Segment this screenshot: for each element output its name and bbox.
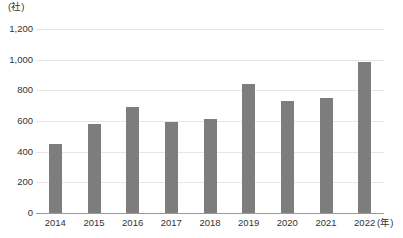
bar	[88, 124, 101, 213]
x-axis-tick-label: 2014	[35, 217, 75, 228]
bar	[320, 98, 333, 213]
y-axis-tick-label: 1,000	[1, 55, 33, 65]
y-axis-unit-label: (社)	[8, 1, 24, 12]
x-axis-tick-label: 2018	[190, 217, 230, 228]
y-axis-tick-label: 400	[1, 147, 33, 157]
x-axis-tick-label: 2017	[151, 217, 191, 228]
y-axis-tick-label: 600	[1, 116, 33, 126]
gridline	[36, 90, 384, 91]
bar	[126, 107, 139, 213]
y-axis-tick-label: 200	[1, 177, 33, 187]
y-axis-tick-label: 800	[1, 85, 33, 95]
x-axis-tick-label: 2020	[267, 217, 307, 228]
gridline	[36, 60, 384, 61]
x-axis-tick-label: 2015	[74, 217, 114, 228]
bar	[204, 119, 217, 213]
y-axis-tick-labels: 02004006008001,0001,200	[0, 29, 33, 213]
bar	[242, 84, 255, 213]
plot-area	[36, 29, 384, 213]
gridline	[36, 29, 384, 30]
bar	[358, 62, 371, 213]
bar	[49, 144, 62, 213]
y-axis-tick-label: 0	[1, 208, 33, 218]
y-axis-tick-label: 1,200	[1, 24, 33, 34]
bar	[165, 122, 178, 213]
bar-chart: (社) 02004006008001,0001,200 (年) 20142015…	[0, 0, 403, 238]
bar	[281, 101, 294, 213]
x-axis-tick-label: 2019	[229, 217, 269, 228]
x-axis-tick-label: 2021	[306, 217, 346, 228]
x-axis-tick-label: 2022	[345, 217, 385, 228]
x-axis-tick-label: 2016	[113, 217, 153, 228]
axis-baseline	[36, 213, 384, 214]
